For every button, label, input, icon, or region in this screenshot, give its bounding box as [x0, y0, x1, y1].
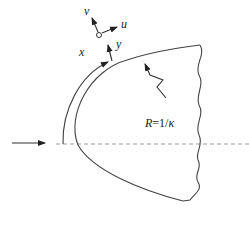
y-coordinate-arrow [108, 45, 112, 61]
label-y: y [115, 37, 122, 51]
label-u: u [121, 17, 127, 31]
radius-curvature-arrow [145, 64, 166, 98]
label-v: v [84, 4, 90, 18]
wavy-boundary [183, 45, 202, 201]
label-radius: R=1/κ [144, 116, 174, 130]
v-velocity-arrow [92, 18, 98, 32]
label-x: x [78, 45, 85, 59]
body-surface [75, 45, 200, 201]
label-kappa: κ [168, 116, 174, 130]
u-velocity-arrow [102, 27, 117, 33]
label-eq: =1/ [152, 116, 169, 130]
diagram-canvas: v u x y R=1/κ [0, 0, 249, 250]
fluid-particle [97, 33, 102, 38]
